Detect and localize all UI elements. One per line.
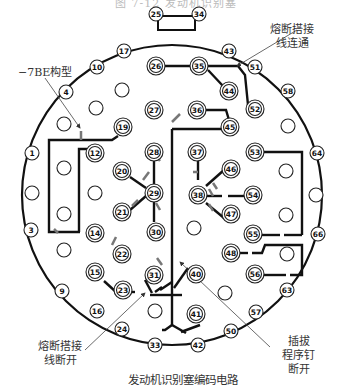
pin-33: 33 xyxy=(148,338,162,352)
pin-57: 57 xyxy=(249,305,263,319)
svg-text:20: 20 xyxy=(117,167,127,176)
pin-46: 46 xyxy=(222,160,240,178)
pin-63: 63 xyxy=(280,283,294,297)
pin-47: 47 xyxy=(222,205,240,223)
svg-text:1: 1 xyxy=(29,149,34,158)
pin-25: 25 xyxy=(149,7,163,21)
pin-43: 43 xyxy=(222,44,236,58)
svg-text:17: 17 xyxy=(119,47,129,56)
svg-text:31: 31 xyxy=(149,271,159,280)
pin-19: 19 xyxy=(114,118,132,136)
svg-text:35: 35 xyxy=(194,62,204,71)
svg-text:40: 40 xyxy=(191,270,201,279)
pin-31: 31 xyxy=(145,266,163,284)
svg-text:12: 12 xyxy=(90,149,100,158)
pin-44: 44 xyxy=(220,82,238,100)
pin-21: 21 xyxy=(113,203,131,221)
pin-9: 9 xyxy=(55,284,69,298)
pin-34: 34 xyxy=(192,7,206,21)
annotation-model-label: −7BE构型 xyxy=(18,66,72,80)
svg-text:14: 14 xyxy=(90,229,100,238)
annotation-bridge-connected: 熔断搭接 线连通 xyxy=(270,23,314,51)
svg-text:43: 43 xyxy=(224,47,234,56)
pin-36: 36 xyxy=(188,101,206,119)
pin-37: 37 xyxy=(188,143,206,161)
svg-text:37: 37 xyxy=(192,148,202,157)
pin-38: 38 xyxy=(189,186,207,204)
pin-10: 10 xyxy=(90,60,104,74)
svg-text:57: 57 xyxy=(251,308,261,317)
pin-3: 3 xyxy=(24,223,38,237)
svg-text:34: 34 xyxy=(194,10,204,19)
pin-22: 22 xyxy=(113,245,131,263)
pin-1: 1 xyxy=(25,146,39,160)
pin-64: 64 xyxy=(310,146,324,160)
pin-17: 17 xyxy=(117,44,131,58)
pin-41: 41 xyxy=(187,305,205,323)
pin-27: 27 xyxy=(145,101,163,119)
svg-text:66: 66 xyxy=(313,230,323,239)
svg-text:9: 9 xyxy=(59,287,64,296)
pin-56: 56 xyxy=(246,265,264,283)
svg-text:4: 4 xyxy=(63,88,68,97)
pin-12: 12 xyxy=(86,144,104,162)
svg-text:63: 63 xyxy=(282,286,292,295)
pin-26: 26 xyxy=(147,57,165,75)
svg-text:58: 58 xyxy=(283,87,293,96)
annotation-program-pin-removed: 插拔 程序钉 断开 xyxy=(282,335,315,377)
svg-text:47: 47 xyxy=(226,210,236,219)
pin-24: 24 xyxy=(115,322,129,336)
svg-text:23: 23 xyxy=(118,286,128,295)
pin-45: 45 xyxy=(221,118,239,136)
pin-48: 48 xyxy=(222,244,240,262)
svg-text:48: 48 xyxy=(226,249,236,258)
svg-text:29: 29 xyxy=(149,189,159,198)
annotation-bridge-broken: 熔断搭接 线断开 xyxy=(38,340,82,368)
pin-14: 14 xyxy=(86,224,104,242)
pin-20: 20 xyxy=(113,162,131,180)
svg-text:22: 22 xyxy=(117,250,127,259)
svg-text:45: 45 xyxy=(225,123,235,132)
svg-text:52: 52 xyxy=(250,105,260,114)
pin-42: 42 xyxy=(191,338,205,352)
svg-text:25: 25 xyxy=(151,10,161,19)
svg-text:64: 64 xyxy=(312,149,322,158)
svg-text:50: 50 xyxy=(226,327,236,336)
pin-55: 55 xyxy=(244,225,262,243)
svg-text:33: 33 xyxy=(150,341,160,350)
svg-text:36: 36 xyxy=(192,106,202,115)
svg-text:28: 28 xyxy=(149,148,159,157)
svg-text:42: 42 xyxy=(193,341,203,350)
engine-id-plug-diagram: 25 34 17 43 10 51 4 58 1 64 3 66 9 63 16… xyxy=(0,0,345,391)
svg-text:19: 19 xyxy=(118,123,128,132)
pin-66: 66 xyxy=(311,227,325,241)
svg-text:3: 3 xyxy=(28,226,33,235)
pin-30: 30 xyxy=(147,223,165,241)
svg-text:26: 26 xyxy=(151,62,161,71)
pin-52: 52 xyxy=(246,100,264,118)
figure-caption: 发动机识别塞编码电路 xyxy=(128,373,238,387)
svg-text:55: 55 xyxy=(248,230,258,239)
pin-23: 23 xyxy=(114,281,132,299)
pin-40: 40 xyxy=(187,265,205,283)
svg-text:27: 27 xyxy=(149,106,159,115)
double-ring-pins: 26 35 44 52 27 36 45 19 12 28 37 53 20 4… xyxy=(86,57,264,323)
pin-54: 54 xyxy=(244,186,262,204)
pin-58: 58 xyxy=(281,84,295,98)
svg-text:30: 30 xyxy=(151,228,161,237)
pin-35: 35 xyxy=(190,57,208,75)
pin-4: 4 xyxy=(59,85,73,99)
svg-text:56: 56 xyxy=(250,270,260,279)
svg-text:16: 16 xyxy=(92,307,102,316)
svg-text:24: 24 xyxy=(117,325,127,334)
svg-text:44: 44 xyxy=(224,87,234,96)
svg-text:10: 10 xyxy=(92,63,102,72)
svg-text:41: 41 xyxy=(191,310,201,319)
pin-50: 50 xyxy=(224,324,238,338)
pin-29: 29 xyxy=(145,184,163,202)
pin-51: 51 xyxy=(248,60,262,74)
pin-15: 15 xyxy=(86,263,104,281)
svg-text:38: 38 xyxy=(193,191,203,200)
svg-text:21: 21 xyxy=(117,208,127,217)
svg-text:53: 53 xyxy=(250,148,260,157)
